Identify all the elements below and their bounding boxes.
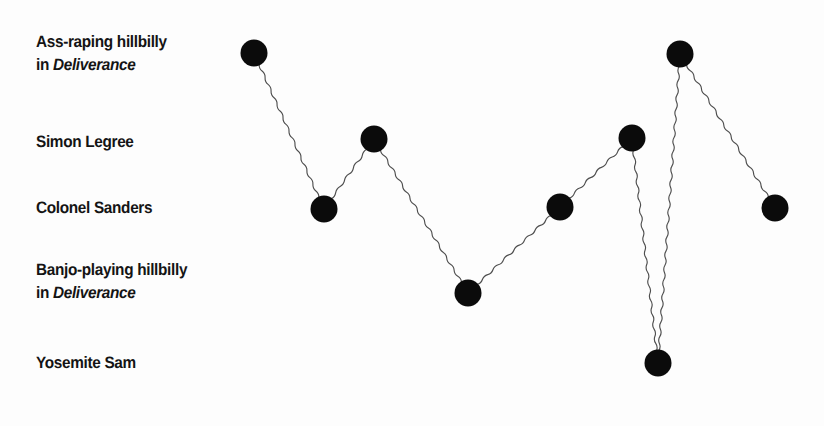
y-axis-label-line-1: Simon Legree xyxy=(36,131,134,154)
y-axis-label-line-1: Banjo-playing hillbilly xyxy=(36,259,187,282)
connector-line-segment xyxy=(331,149,366,199)
y-axis-label-title-italic: Deliverance xyxy=(53,56,136,74)
data-point-marker xyxy=(311,196,338,223)
y-axis-label-banjo-playing-hillbilly: Banjo-playing hillbillyin Deliverance xyxy=(36,259,187,305)
y-axis-label-line-1: Colonel Sanders xyxy=(36,197,152,220)
data-point-marker xyxy=(667,41,694,68)
y-axis-label-ass-raping-hillbilly: Ass-raping hillbillyin Deliverance xyxy=(36,31,167,77)
y-axis-label-yosemite-sam: Yosemite Sam xyxy=(36,352,136,375)
y-axis-label-colonel-sanders: Colonel Sanders xyxy=(36,197,152,220)
y-axis-label-line-1: Ass-raping hillbilly xyxy=(36,31,167,54)
chart-figure: Ass-raping hillbillyin DeliveranceSimon … xyxy=(0,0,824,426)
y-axis-label-line-2: in Deliverance xyxy=(36,282,187,305)
connector-line-segment xyxy=(633,150,657,350)
data-point-marker xyxy=(619,125,646,152)
y-axis-label-line-2: in Deliverance xyxy=(36,54,167,77)
data-point-marker xyxy=(762,195,789,222)
y-axis-label-prefix: in xyxy=(36,284,53,302)
data-point-marker xyxy=(547,194,574,221)
connector-line-segment xyxy=(259,64,319,197)
y-axis-label-column: Ass-raping hillbillyin DeliveranceSimon … xyxy=(0,0,240,426)
data-point-marker xyxy=(645,350,672,377)
y-axis-label-line-1: Yosemite Sam xyxy=(36,352,136,375)
data-point-marker xyxy=(241,40,268,67)
data-point-marker xyxy=(455,280,482,307)
connector-line-segment xyxy=(687,65,769,198)
data-point-marker xyxy=(361,126,388,153)
connector-line-segment xyxy=(381,150,462,283)
connector-line-segment xyxy=(569,147,623,199)
y-axis-label-prefix: in xyxy=(36,56,53,74)
y-axis-label-title-italic: Deliverance xyxy=(53,284,136,302)
y-axis-label-simon-legree: Simon Legree xyxy=(36,131,134,154)
data-points-layer xyxy=(241,40,789,377)
connector-line-segment xyxy=(659,66,680,350)
connector-line-segment xyxy=(477,216,551,285)
